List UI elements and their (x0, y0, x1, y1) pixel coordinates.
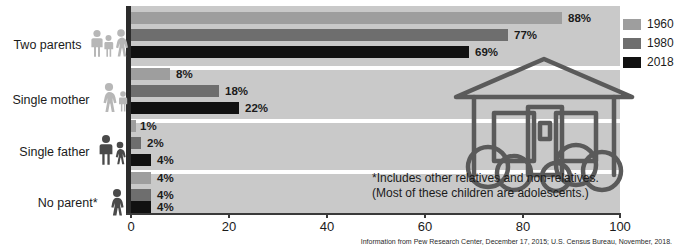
bar-value-two-parents-1980: 77% (514, 29, 537, 41)
bar-two-parents-1980 (131, 29, 508, 41)
bar-value-single-father-1980: 2% (147, 137, 164, 149)
man-child-woman-icon (90, 28, 128, 61)
x-tick-label-80: 80 (516, 219, 530, 234)
footnote-line-1: *Includes other relatives and non-relati… (372, 171, 599, 186)
bar-two-parents-2018 (131, 46, 469, 58)
x-tick-mark-60 (424, 213, 426, 218)
x-tick-label-60: 60 (418, 219, 432, 234)
legend-swatch-1980 (623, 38, 641, 49)
bar-value-single-mother-1960: 8% (176, 68, 193, 80)
bar-single-father-1980 (131, 137, 141, 149)
bar-value-single-father-1960: 1% (140, 120, 157, 132)
bar-no-parent-2018 (131, 201, 151, 213)
legend-item-1980: 1980 (623, 35, 674, 51)
footnote: *Includes other relatives and non-relati… (372, 171, 599, 201)
bar-single-father-1960 (131, 120, 136, 132)
bar-value-single-mother-1980: 18% (225, 85, 248, 97)
x-tick-label-100: 100 (609, 219, 631, 234)
category-label-single-father: Single father (0, 134, 128, 169)
bar-value-two-parents-2018: 69% (475, 46, 498, 58)
bar-single-father-2018 (131, 154, 151, 166)
x-tick-label-20: 20 (222, 219, 236, 234)
category-label-text: Single father (19, 145, 89, 159)
x-tick-mark-20 (228, 213, 230, 218)
bar-value-no-parent-1960: 4% (157, 172, 174, 184)
source-attribution: Information from Pew Research Center, De… (0, 238, 672, 245)
category-label-text: Two parents (13, 38, 81, 52)
bar-no-parent-1980 (131, 189, 151, 201)
category-label-two-parents: Two parents (0, 28, 128, 61)
child-icon (106, 186, 128, 219)
category-label-text: No parent* (38, 196, 98, 210)
x-tick-mark-40 (326, 213, 328, 218)
bar-two-parents-1960 (131, 12, 562, 24)
x-tick-mark-100 (619, 213, 621, 218)
legend-label-1980: 1980 (647, 36, 674, 50)
bar-value-two-parents-1960: 88% (568, 12, 591, 24)
legend-label-2018: 2018 (647, 55, 674, 69)
legend: 1960 1980 2018 (623, 16, 674, 73)
bar-value-no-parent-2018: 4% (157, 201, 174, 213)
x-tick-mark-0 (130, 213, 132, 218)
woman-child-icon (98, 82, 128, 117)
bar-single-mother-2018 (131, 102, 239, 114)
family-structure-bar-chart: Two parents 88% 77% 69% Single mother (0, 0, 676, 251)
legend-swatch-2018 (623, 57, 641, 68)
footnote-line-2: (Most of these children are adolescents.… (372, 186, 599, 201)
x-axis-line (126, 213, 620, 215)
bar-value-single-father-2018: 4% (157, 154, 174, 166)
category-label-no-parent: No parent* (0, 186, 128, 219)
category-label-single-mother: Single mother (0, 82, 128, 117)
bar-value-no-parent-1980: 4% (157, 189, 174, 201)
x-tick-mark-80 (522, 213, 524, 218)
legend-label-1960: 1960 (647, 17, 674, 31)
x-tick-label-40: 40 (320, 219, 334, 234)
band-separator (130, 119, 620, 123)
legend-item-1960: 1960 (623, 16, 674, 32)
category-label-text: Single mother (12, 93, 89, 107)
legend-item-2018: 2018 (623, 54, 674, 70)
x-tick-label-0: 0 (127, 219, 134, 234)
bar-value-single-mother-2018: 22% (245, 102, 268, 114)
bar-no-parent-1960 (131, 172, 151, 184)
bar-single-mother-1960 (131, 68, 170, 80)
man-girl-icon (98, 134, 128, 169)
legend-swatch-1960 (623, 19, 641, 30)
bar-single-mother-1980 (131, 85, 219, 97)
band-separator (130, 66, 620, 70)
